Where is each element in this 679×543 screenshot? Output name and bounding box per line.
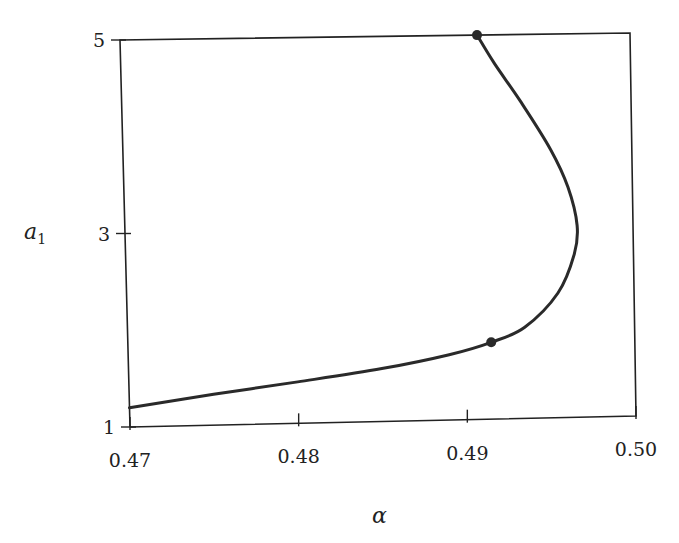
data-point-marker — [486, 337, 496, 347]
chart: 0.470.480.490.50135 a1 α — [0, 0, 679, 543]
x-axis-label: α — [372, 503, 387, 528]
x-tick-label: 0.48 — [278, 445, 320, 467]
plot-area: 0.470.480.490.50135 — [93, 29, 657, 471]
x-tick-label: 0.50 — [615, 438, 657, 460]
y-tick-label: 3 — [98, 223, 110, 245]
y-tick-label: 5 — [93, 29, 105, 51]
y-axis-label: a1 — [24, 219, 46, 247]
x-tick-label: 0.47 — [109, 449, 151, 471]
data-point-marker — [472, 30, 482, 40]
y-tick-label: 1 — [103, 416, 115, 438]
curve-a1-vs-alpha — [130, 35, 578, 408]
x-tick-label: 0.49 — [446, 442, 488, 464]
